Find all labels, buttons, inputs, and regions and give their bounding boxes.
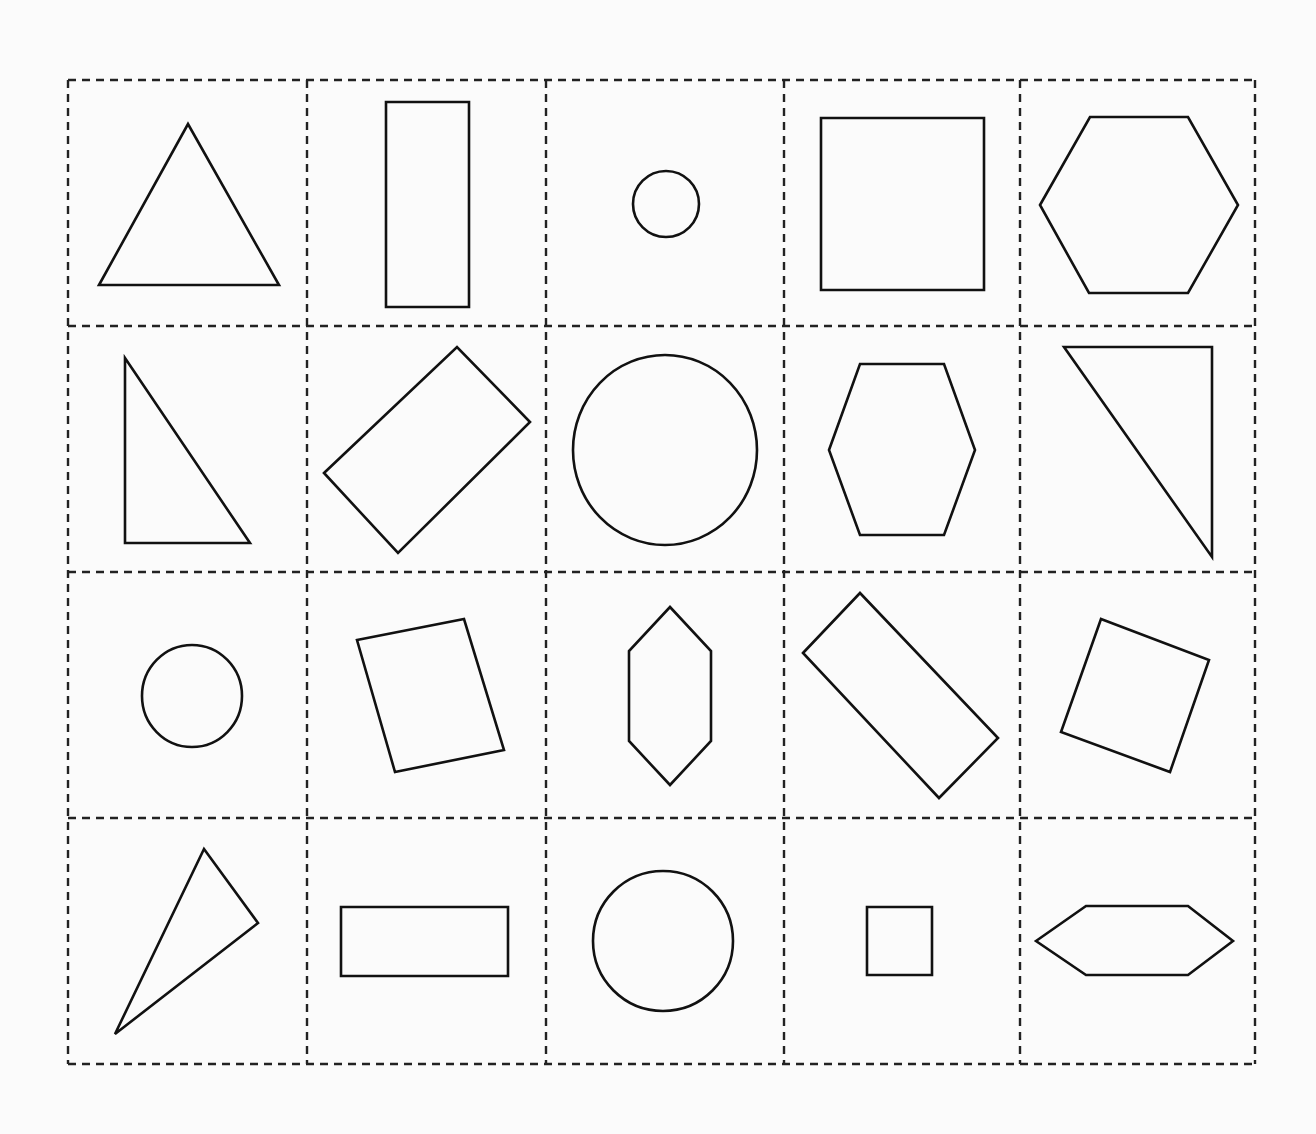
shapes-worksheet <box>0 0 1316 1134</box>
triangle-shape-r2c1 <box>125 358 250 543</box>
square-shape-r1c4 <box>821 118 984 290</box>
circle-shape-r1c3 <box>633 171 699 237</box>
square-shape-r4c4 <box>867 907 932 975</box>
hexagon-shape-r1c5 <box>1040 117 1238 293</box>
square-shape-r3c5 <box>1061 619 1209 772</box>
circle-shape-r3c1 <box>142 645 242 747</box>
circle-shape-r4c3 <box>593 871 733 1011</box>
rectangle-shape-r2c2 <box>324 347 530 553</box>
rectangle-shape-r4c2 <box>341 907 508 976</box>
circle-shape-r2c3 <box>573 355 757 545</box>
triangle-shape-r4c1 <box>115 849 258 1034</box>
rectangle-shape-r3c4 <box>803 593 998 798</box>
triangle-shape-r2c5 <box>1064 347 1212 557</box>
hexagon-shape-r3c3 <box>629 607 711 785</box>
shape-set <box>99 102 1238 1034</box>
hexagon-shape-r2c4 <box>829 364 975 535</box>
square-shape-r3c2 <box>357 619 504 772</box>
hexagon-shape-r4c5 <box>1036 906 1233 975</box>
rectangle-shape-r1c2 <box>386 102 469 307</box>
triangle-shape-r1c1 <box>99 124 279 285</box>
